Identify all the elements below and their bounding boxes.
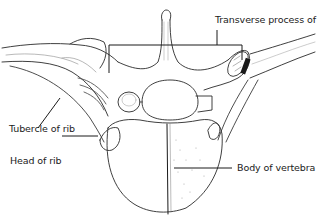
left-rib-head [100, 128, 120, 151]
left-facet [118, 92, 140, 112]
right-rib-upper-edge [250, 34, 315, 54]
label-transverse-process: Transverse process of vertebra [215, 15, 317, 25]
left-rib-upper-edge [2, 44, 118, 62]
left-rib-lower-edge [2, 61, 108, 116]
right-rib-lower-edge [250, 52, 315, 78]
label-body-of-vertebra: Body of vertebra [237, 163, 315, 173]
joint-cavity [240, 58, 250, 75]
label-head-of-rib: Head of rib [10, 156, 62, 166]
lamina-left [118, 20, 162, 69]
vertebral-foramen [142, 80, 198, 120]
vertebral-body [107, 119, 222, 212]
body-stippling [173, 139, 204, 198]
right-pedicle [196, 96, 212, 112]
spinous-process-tip [161, 10, 170, 20]
label-tubercle-of-rib: Tubercle of rib [9, 124, 75, 134]
vertebra-rib-diagram: Transverse process of vertebra Tubercle … [0, 0, 317, 221]
anatomy-illustration [0, 0, 317, 221]
